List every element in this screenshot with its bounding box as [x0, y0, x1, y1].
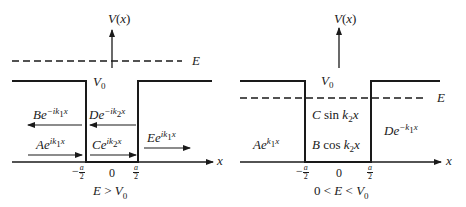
exp: −ik: [104, 106, 117, 116]
minus: −: [72, 164, 79, 178]
fraction: a2: [133, 164, 139, 181]
exp-x: x: [121, 106, 125, 116]
wave-A-label: Aeik1x: [36, 138, 65, 151]
tick-minus-a-half-right: −a2: [296, 164, 309, 181]
exp: −ik: [47, 106, 60, 116]
coef-A: A: [36, 137, 44, 152]
x-axis-label-right: x: [446, 154, 452, 167]
coef-E: E: [147, 130, 155, 145]
caption-left: E > V0: [93, 184, 127, 201]
v0-label-right: V0: [321, 74, 333, 87]
caption-right: 0 < E < V0: [314, 184, 369, 201]
solution-A-left: Aek1x: [253, 138, 279, 151]
exp-x: x: [64, 106, 68, 116]
v-letter: V: [108, 11, 116, 26]
wave-E-label: Eeik1x: [147, 131, 176, 144]
coef-D: D: [89, 107, 98, 122]
wave-C-label: Ceik2x: [92, 138, 121, 151]
coef-B: B: [33, 107, 41, 122]
tick-zero-left: 0: [109, 167, 115, 179]
coef-C: C: [92, 137, 101, 152]
diagram-canvas: [0, 0, 466, 207]
v0-sub: 0: [101, 81, 106, 91]
wave-D-label: De−ik2x: [89, 108, 125, 121]
v-axis-label-left: V(x): [108, 12, 130, 25]
exp-x: x: [117, 136, 121, 146]
wave-B-label: Be−ik1x: [33, 108, 68, 121]
energy-label-right: E: [437, 91, 445, 104]
solution-C-sin: C sin k2x: [312, 108, 358, 121]
tick-a-half-right: a2: [367, 164, 373, 181]
solution-B-cos: B cos k2x: [312, 138, 360, 151]
energy-label-left: E: [192, 54, 200, 67]
v-axis-label-right: V(x): [334, 12, 356, 25]
exp-x: x: [172, 129, 176, 139]
v0-label-left: V0: [93, 75, 105, 88]
solution-D-right: De−k1x: [384, 124, 418, 137]
tick-minus-a-half-left: −a2: [72, 164, 85, 181]
tick-a-half-left: a2: [133, 164, 139, 181]
fraction: a2: [79, 164, 85, 181]
exp-x: x: [61, 136, 65, 146]
x-axis-label-left: x: [217, 154, 223, 167]
tick-zero-right: 0: [336, 167, 342, 179]
v0-v: V: [93, 74, 101, 89]
